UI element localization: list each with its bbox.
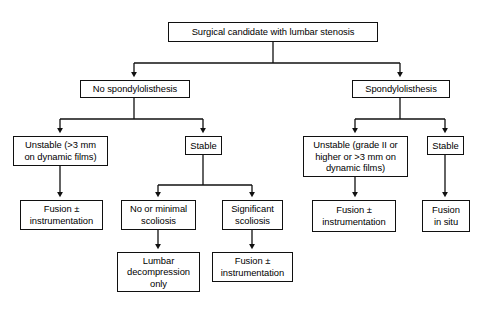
node-unstable-right[interactable]: Unstable (grade II or higher or >3 mm on… [303, 136, 408, 177]
node-spondylolisthesis[interactable]: Spondylolisthesis [352, 80, 450, 98]
edge-root-to-branch [134, 42, 400, 63]
edge-no-spondylolisthesis-rail [60, 98, 203, 119]
node-lumbar-decompression-only[interactable]: Lumbar decompression only [117, 252, 200, 292]
node-fusion-instrumentation-1[interactable]: Fusion ± instrumentation [20, 200, 103, 230]
edge-spondylolisthesis-rail [355, 98, 445, 119]
node-root[interactable]: Surgical candidate with lumbar stenosis [168, 22, 378, 42]
node-fusion-in-situ[interactable]: Fusion in situ [422, 200, 470, 232]
node-stable-right[interactable]: Stable [427, 136, 464, 155]
node-significant-scoliosis[interactable]: Significant scoliosis [222, 200, 283, 230]
edge-stable-left-rail [158, 155, 252, 185]
node-no-spondylolisthesis[interactable]: No spondylolisthesis [80, 80, 190, 98]
node-unstable-left[interactable]: Unstable (>3 mm on dynamic films) [13, 136, 108, 166]
node-stable-left[interactable]: Stable [185, 136, 222, 155]
node-no-or-minimal-scoliosis[interactable]: No or minimal scoliosis [121, 200, 196, 230]
node-fusion-instrumentation-2[interactable]: Fusion ± instrumentation [312, 200, 396, 232]
flowchart-canvas: Surgical candidate with lumbar stenosis … [0, 0, 482, 314]
node-fusion-instrumentation-3[interactable]: Fusion ± instrumentation [212, 252, 293, 282]
